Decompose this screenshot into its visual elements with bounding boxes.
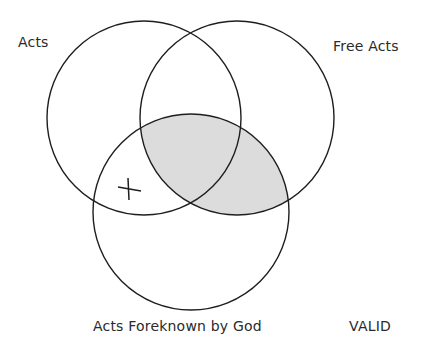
- label-acts: Acts: [18, 34, 49, 50]
- label-foreknown: Acts Foreknown by God: [93, 318, 262, 334]
- label-free-acts: Free Acts: [333, 38, 399, 54]
- verdict-label: VALID: [349, 318, 391, 334]
- x-mark-icon: [118, 178, 141, 200]
